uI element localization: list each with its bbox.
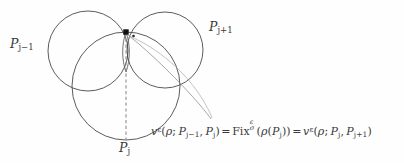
circle-p-j-minus-1	[48, 11, 128, 91]
term1-semicolon: ;	[172, 125, 176, 138]
accent-dot	[132, 35, 135, 38]
term3-semicolon: ;	[324, 125, 328, 138]
term1-comma: ,	[200, 125, 204, 138]
equation-caption: vε(ρ; Pj−1, Pj)=Fixεσ(ρ(Pj))=vε(ρ; Pj, P…	[151, 124, 372, 138]
term3-comma: ,	[340, 125, 344, 138]
equals-1: =	[220, 125, 232, 138]
label-p-j-minus-1: Pj−1	[10, 38, 34, 51]
label-p-j-sub: j	[127, 146, 130, 156]
circle-p-j-plus-1	[127, 12, 203, 88]
term1-arg2: P	[205, 125, 213, 138]
term3-arg1: P	[330, 125, 338, 138]
geodesic-curve	[128, 35, 211, 119]
label-p-j-minus-1-sub: j−1	[18, 42, 33, 52]
label-p-j-plus-1: Pj+1	[209, 21, 233, 34]
term3-arg2-sub: j+1	[354, 130, 368, 139]
term1-arg1-sub: j−1	[186, 130, 200, 139]
equals-2: =	[291, 125, 303, 138]
label-p-j: Pj	[119, 142, 130, 155]
secondary-arc	[129, 36, 212, 118]
term2-subsup: εσ	[250, 124, 257, 135]
term1-arg1: P	[178, 125, 186, 138]
term2-arg1: P	[272, 125, 280, 138]
term2-fn: Fix	[232, 125, 250, 138]
term3-arg2: P	[346, 125, 354, 138]
diagram-canvas	[0, 0, 404, 163]
term2-rho: ρ	[261, 125, 268, 138]
intersection-point-marker	[123, 29, 128, 34]
term3-close: )	[367, 125, 371, 138]
label-p-j-plus-1-sub: j+1	[217, 25, 232, 35]
geometric-diagram: Pj−1 Pj+1 Pj vε(ρ; Pj−1, Pj)=Fixεσ(ρ(Pj)…	[0, 0, 404, 163]
